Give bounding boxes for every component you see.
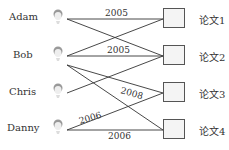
paper-box-3 xyxy=(163,82,185,102)
edge-label-bob-paper3: 2008 xyxy=(119,85,144,101)
paper-label-4: 论文4 xyxy=(199,123,225,138)
paper-label-3: 论文3 xyxy=(199,86,225,101)
paper-label-2: 论文2 xyxy=(199,49,225,64)
edge-label-bob-paper2: 2005 xyxy=(107,45,130,55)
paper-box-1 xyxy=(163,8,185,28)
authorship-edges: 2005 2005 2008 2006 2006 xyxy=(0,0,229,150)
paper-label-1: 论文1 xyxy=(199,12,225,27)
edge-label-danny-paper3: 2006 xyxy=(78,110,103,126)
paper-box-4 xyxy=(163,119,185,139)
paper-box-2 xyxy=(163,45,185,65)
edge-label-danny-paper4: 2006 xyxy=(108,131,131,141)
edge-label-adam-paper1: 2005 xyxy=(105,8,128,18)
